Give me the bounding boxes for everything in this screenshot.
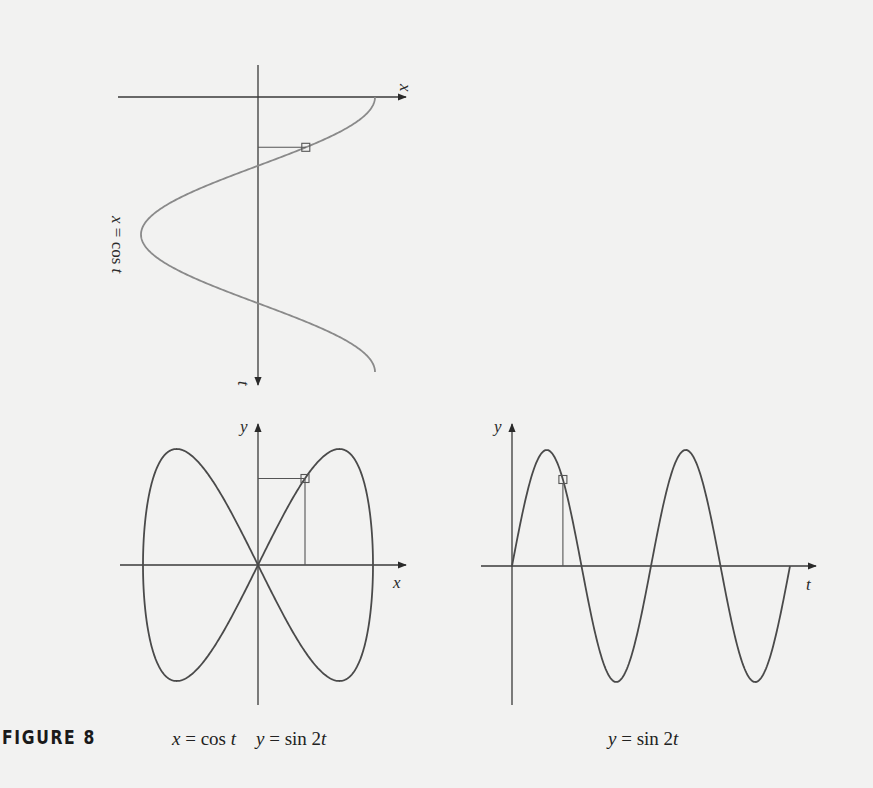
figure-canvas: x t x = cos t x y t y x = cos ty = sin 2…	[0, 0, 873, 788]
br-t-label: t	[806, 575, 812, 594]
bottom-left-plot: x y	[120, 417, 406, 705]
caption-right: y = sin 2t	[606, 728, 679, 749]
bl-x-label: x	[392, 573, 401, 592]
br-y-label: y	[492, 417, 502, 436]
top-plot: x t x = cos t	[108, 65, 415, 387]
bl-y-label: y	[238, 417, 248, 436]
top-t-label: t	[234, 381, 253, 387]
caption-left: x = cos ty = sin 2t	[171, 728, 327, 749]
figure-label: FIGURE 8	[2, 726, 96, 748]
bottom-right-plot: t y	[481, 417, 816, 705]
top-rotated-label: x = cos t	[108, 215, 127, 275]
top-x-label: x	[396, 83, 415, 92]
